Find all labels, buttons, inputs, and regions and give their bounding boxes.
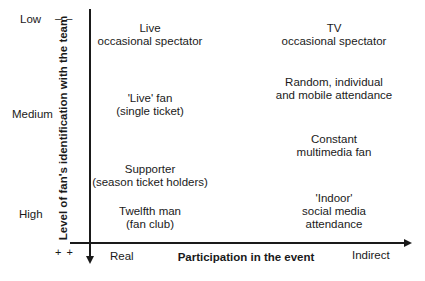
y-axis-title: Level of fan's identification with the t… (57, 16, 69, 240)
level-medium: Medium (12, 108, 53, 120)
cell-supporter: Supporter (season ticket holders) (92, 163, 208, 189)
x-axis-indirect: Indirect (352, 249, 390, 261)
cell-twelfth-man: Twelfth man (fan club) (119, 205, 181, 231)
cell-live-fan: 'Live' fan (single ticket) (116, 92, 184, 118)
cell-constant-multimedia-fan: Constant multimedia fan (297, 133, 372, 159)
high-marker: + + (55, 246, 74, 258)
cell-random-attendance: Random, individual and mobile attendance (276, 76, 392, 102)
x-axis-real: Real (110, 250, 134, 262)
cell-live-occasional-spectator: Live occasional spectator (98, 22, 203, 48)
level-high: High (19, 208, 43, 220)
level-low: Low (20, 13, 41, 25)
x-axis-arrow-icon (404, 239, 412, 247)
cell-tv-occasional-spectator: TV occasional spectator (282, 22, 387, 48)
y-axis-arrow-icon (86, 256, 94, 264)
cell-indoor-social-media: 'Indoor' social media attendance (302, 192, 366, 231)
x-axis-title: Participation in the event (178, 251, 315, 263)
